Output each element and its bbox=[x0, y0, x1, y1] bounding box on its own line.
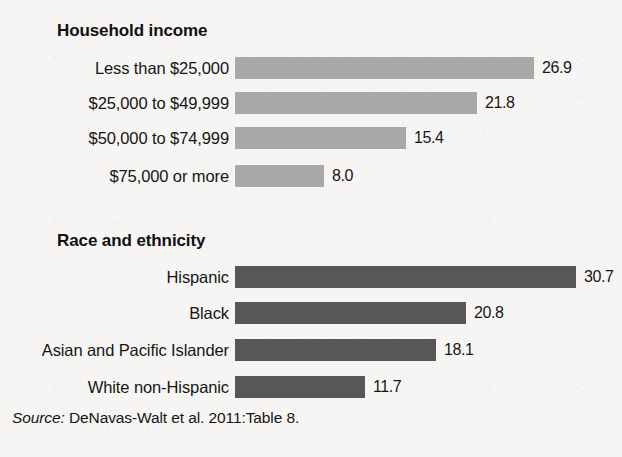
bar-fill bbox=[235, 127, 406, 149]
bar-value: 30.7 bbox=[584, 265, 614, 287]
bar-fill bbox=[235, 302, 466, 324]
bar-value: 21.8 bbox=[485, 91, 515, 113]
bar-track bbox=[235, 302, 466, 324]
bar-row: Asian and Pacific Islander 18.1 bbox=[0, 338, 622, 362]
bar-value: 8.0 bbox=[332, 164, 353, 186]
bar-fill bbox=[235, 165, 324, 187]
bar-value: 15.4 bbox=[414, 126, 444, 148]
bar-label: Black bbox=[0, 301, 229, 325]
bar-row: $25,000 to $49,999 21.8 bbox=[0, 91, 622, 115]
section-heading-household-income: Household income bbox=[57, 21, 207, 41]
bar-label: White non-Hispanic bbox=[0, 375, 229, 399]
bar-track bbox=[235, 127, 406, 149]
bar-value: 11.7 bbox=[373, 375, 401, 397]
source-note: Source: DeNavas-Walt et al. 2011:Table 8… bbox=[12, 409, 299, 427]
bar-label: Less than $25,000 bbox=[0, 56, 229, 80]
bar-row: Black 20.8 bbox=[0, 301, 622, 325]
bar-value: 26.9 bbox=[542, 56, 572, 78]
bar-chart-figure: Household income Less than $25,000 26.9 … bbox=[0, 0, 622, 457]
bar-track bbox=[235, 339, 436, 361]
bar-fill bbox=[235, 57, 534, 79]
bar-row: $75,000 or more 8.0 bbox=[0, 164, 622, 188]
source-citation: DeNavas-Walt et al. 2011:Table 8. bbox=[69, 409, 299, 426]
bar-row: $50,000 to $74,999 15.4 bbox=[0, 126, 622, 150]
bar-label: $25,000 to $49,999 bbox=[0, 91, 229, 115]
bar-row: Less than $25,000 26.9 bbox=[0, 56, 622, 80]
bar-row: Hispanic 30.7 bbox=[0, 265, 622, 289]
bar-fill bbox=[235, 266, 576, 288]
bar-track bbox=[235, 165, 324, 187]
bar-label: $50,000 to $74,999 bbox=[0, 126, 229, 150]
bar-label: $75,000 or more bbox=[0, 164, 229, 188]
bar-row: White non-Hispanic 11.7 bbox=[0, 375, 622, 399]
source-label: Source: bbox=[12, 409, 65, 426]
bar-fill bbox=[235, 92, 477, 114]
bar-value: 20.8 bbox=[474, 301, 504, 323]
bar-label: Hispanic bbox=[0, 265, 229, 289]
bar-fill bbox=[235, 339, 436, 361]
section-heading-race-and-ethnicity: Race and ethnicity bbox=[57, 231, 205, 251]
bar-value: 18.1 bbox=[444, 338, 474, 360]
bar-track bbox=[235, 266, 576, 288]
bar-label: Asian and Pacific Islander bbox=[0, 338, 229, 362]
bar-fill bbox=[235, 376, 365, 398]
bar-track bbox=[235, 376, 365, 398]
bar-track bbox=[235, 57, 534, 79]
bar-track bbox=[235, 92, 477, 114]
